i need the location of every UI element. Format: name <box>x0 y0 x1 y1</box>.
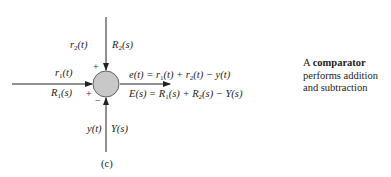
label-y-time: y(t) <box>87 124 102 135</box>
sign-r2: + <box>93 62 99 72</box>
side-note-line3: and subtraction <box>303 82 378 95</box>
side-note-line1: A comparator <box>303 57 378 70</box>
label-r1-time: r1(t) <box>55 68 73 80</box>
figure-caption: (c) <box>101 159 113 170</box>
side-note-term: comparator <box>313 57 366 68</box>
label-r1-laplace: R1(s) <box>51 88 72 100</box>
comparator-node <box>93 71 119 97</box>
output-laplace-equation: E(s) = R1(s) + R2(s) − Y(s) <box>129 89 242 101</box>
label-r2-time: r2(t) <box>70 40 88 52</box>
output-time-equation: e(t) = r1(t) + r2(t) − y(t) <box>129 70 230 82</box>
sign-y: − <box>95 96 101 106</box>
label-y-laplace: Y(s) <box>111 124 128 135</box>
label-r2-laplace: R2(s) <box>112 40 133 52</box>
side-note-line2: performs addition <box>303 70 378 83</box>
side-note: A comparator performs addition and subtr… <box>303 57 378 95</box>
sign-r1: + <box>86 89 92 99</box>
